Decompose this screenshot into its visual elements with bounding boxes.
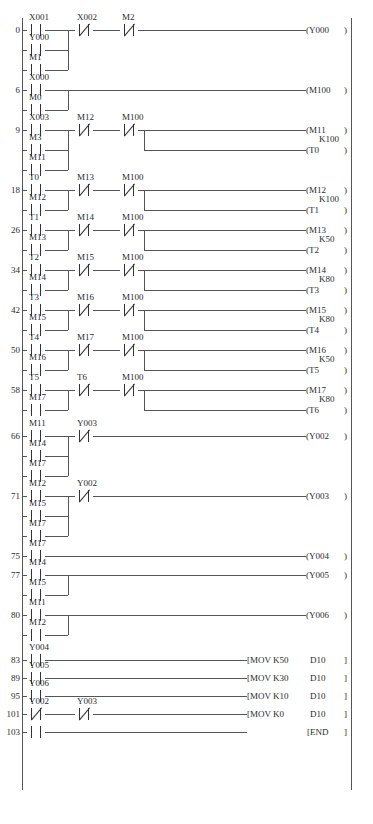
branch-join-vertical [68, 190, 69, 210]
wire-horizontal [45, 170, 68, 171]
contact-label: M16 [29, 353, 46, 362]
branch-join-vertical [68, 270, 69, 290]
instruction-mov[interactable]: [MOV K30 [247, 673, 289, 684]
branch-rail-vertical [22, 496, 23, 536]
contact-unnamed-no[interactable] [27, 726, 45, 738]
contact-label: T1 [29, 213, 39, 222]
contact-y003-nc[interactable] [75, 708, 93, 720]
rung-step-number: 18 [0, 186, 20, 195]
timer-branch-vertical [144, 390, 145, 410]
timer-branch-vertical [144, 130, 145, 150]
contact-m17-no[interactable] [27, 404, 45, 416]
contact-x002-nc[interactable] [75, 24, 93, 36]
contact-y002-nc[interactable] [75, 490, 93, 502]
branch-join-vertical [68, 30, 69, 70]
wire-horizontal [45, 714, 75, 715]
instruction-close-bracket: ] [344, 673, 347, 684]
instruction-mov[interactable]: [MOV K50 [247, 655, 289, 666]
coil-close-paren: ) [344, 205, 347, 216]
instruction-mov[interactable]: [MOV K10 [247, 691, 289, 702]
contact-label: M11 [29, 598, 46, 607]
coil-t1[interactable]: (T1 [306, 205, 319, 216]
timer-preset-value: K50 [319, 235, 335, 244]
contact-m15-nc[interactable] [75, 264, 93, 276]
instruction-end[interactable]: [END [307, 727, 329, 738]
coil-y006[interactable]: (Y006 [306, 610, 329, 621]
contact-m100-nc[interactable] [120, 304, 138, 316]
wire-horizontal [93, 130, 120, 131]
contact-label: M100 [122, 333, 144, 342]
timer-branch-wire [144, 410, 306, 411]
branch-rail-vertical [22, 390, 23, 410]
timer-preset-value: K80 [319, 315, 335, 324]
rung-output-wire [45, 696, 247, 697]
contact-m100-nc[interactable] [120, 344, 138, 356]
coil-t6[interactable]: (T6 [306, 405, 319, 416]
contact-label: M12 [29, 193, 46, 202]
rung-step-number: 0 [0, 26, 20, 35]
coil-t0[interactable]: (T0 [306, 145, 319, 156]
wire-horizontal [93, 350, 120, 351]
contact-bar-right [40, 324, 41, 336]
contact-m100-nc[interactable] [120, 224, 138, 236]
wire-horizontal [45, 230, 75, 231]
instruction-operand-destination: D10 [310, 673, 326, 684]
rung-step-number: 95 [0, 692, 20, 701]
contact-m100-nc[interactable] [120, 384, 138, 396]
contact-m12-nc[interactable] [75, 124, 93, 136]
contact-label: M100 [122, 373, 144, 382]
timer-branch-vertical [144, 190, 145, 210]
coil-close-paren: ) [344, 431, 347, 442]
contact-label: M15 [77, 253, 94, 262]
contact-label: T6 [77, 373, 87, 382]
coil-y005[interactable]: (Y005 [306, 570, 329, 581]
coil-close-paren: ) [344, 185, 347, 196]
contact-m2-nc[interactable] [120, 24, 138, 36]
contact-m100-nc[interactable] [120, 184, 138, 196]
timer-branch-wire [144, 370, 306, 371]
contact-m13-nc[interactable] [75, 184, 93, 196]
contact-label: M11 [29, 419, 46, 428]
contact-m12-no[interactable] [27, 629, 45, 641]
contact-label: M3 [29, 133, 42, 142]
coil-y004[interactable]: (Y004 [306, 551, 329, 562]
rung-output-wire [138, 350, 306, 351]
coil-t3[interactable]: (T3 [306, 285, 319, 296]
timer-branch-wire [144, 330, 306, 331]
coil-t4[interactable]: (T4 [306, 325, 319, 336]
branch-rail-vertical [22, 230, 23, 250]
coil-close-paren: ) [344, 125, 347, 136]
coil-y002[interactable]: (Y002 [306, 431, 329, 442]
contact-m17-nc[interactable] [75, 344, 93, 356]
rung-output-wire [138, 130, 306, 131]
contact-label: M15 [29, 313, 46, 322]
contact-m100-nc[interactable] [120, 124, 138, 136]
wire-horizontal [45, 410, 68, 411]
contact-nc-slash [78, 223, 92, 237]
contact-m100-nc[interactable] [120, 264, 138, 276]
contact-m14-nc[interactable] [75, 224, 93, 236]
instruction-mov[interactable]: [MOV K0 [247, 709, 284, 720]
contact-nc-slash [78, 383, 92, 397]
coil-close-paren: ) [344, 570, 347, 581]
wire-horizontal [45, 190, 75, 191]
coil-y003[interactable]: (Y003 [306, 491, 329, 502]
contact-label: M14 [77, 213, 94, 222]
coil-t5[interactable]: (T5 [306, 365, 319, 376]
contact-label: M17 [29, 393, 46, 402]
contact-bar-right [40, 204, 41, 216]
contact-t6-nc[interactable] [75, 384, 93, 396]
branch-rail-vertical [22, 575, 23, 595]
rung-output-wire [138, 310, 306, 311]
rung-output-wire [93, 714, 247, 715]
coil-t2[interactable]: (T2 [306, 245, 319, 256]
instruction-operand-destination: D10 [310, 709, 326, 720]
coil-y000[interactable]: (Y000 [306, 25, 329, 36]
rung-step-number: 34 [0, 266, 20, 275]
contact-y002-nc[interactable] [27, 708, 45, 720]
contact-y003-nc[interactable] [75, 430, 93, 442]
contact-m16-nc[interactable] [75, 304, 93, 316]
branch-join-vertical [68, 90, 69, 110]
coil-m100[interactable]: (M100 [306, 85, 331, 96]
contact-nc-slash [78, 489, 92, 503]
